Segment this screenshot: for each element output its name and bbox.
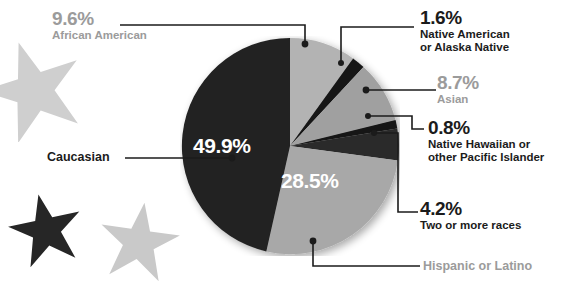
callout-name2-native-hawaiian: other Pacific Islander — [428, 151, 544, 164]
callout-name2-native-american: or Alaska Native — [420, 41, 510, 54]
star-icon — [0, 38, 94, 142]
pie-chart: 49.9% 28.5% — [180, 36, 400, 256]
callout-african-american[interactable]: 9.6% African American — [52, 9, 147, 42]
callout-pct-asian: 8.7% — [437, 73, 479, 93]
callout-name-two-or-more-races: Two or more races — [420, 219, 521, 232]
callout-name-african-american: African American — [52, 29, 147, 42]
infographic-canvas: 49.9% 28.5% — [0, 0, 579, 290]
callout-native-american[interactable]: 1.6% Native American or Alaska Native — [420, 8, 510, 54]
callout-name-native-american: Native American — [420, 28, 510, 41]
callout-two-or-more-races[interactable]: 4.2% Two or more races — [420, 199, 521, 232]
callout-pct-native-hawaiian: 0.8% — [428, 118, 544, 138]
callout-name-native-hawaiian: Native Hawaiian or — [428, 138, 544, 151]
star-icon — [6, 192, 86, 268]
star-icon — [96, 200, 182, 284]
callout-caucasian[interactable]: Caucasian — [47, 150, 110, 164]
pie-label-hispanic-pct: 28.5% — [281, 169, 339, 193]
callout-pct-native-american: 1.6% — [420, 8, 510, 28]
callout-pct-african-american: 9.6% — [52, 9, 147, 29]
callout-asian[interactable]: 8.7% Asian — [437, 73, 479, 106]
callout-native-hawaiian[interactable]: 0.8% Native Hawaiian or other Pacific Is… — [428, 118, 544, 164]
callout-hispanic-or-latino[interactable]: Hispanic or Latino — [423, 259, 532, 273]
callout-pct-two-or-more-races: 4.2% — [420, 199, 521, 219]
pie-label-caucasian-pct: 49.9% — [193, 134, 251, 158]
callout-name-asian: Asian — [437, 93, 479, 106]
